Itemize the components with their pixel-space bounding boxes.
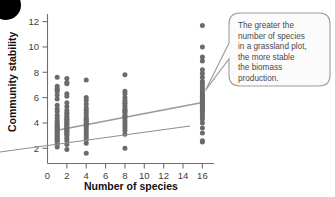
data-point bbox=[64, 81, 69, 86]
data-point bbox=[55, 75, 60, 80]
y-tick-label: 4 bbox=[34, 117, 39, 128]
x-tick-label: 16 bbox=[197, 170, 208, 181]
data-point bbox=[200, 120, 205, 125]
y-tick-label: 8 bbox=[34, 67, 39, 78]
data-point bbox=[84, 141, 89, 146]
y-axis-tick-labels: 24681012 bbox=[28, 16, 39, 154]
annotation-callout: The greater thenumber of speciesin a gra… bbox=[205, 13, 330, 90]
data-point bbox=[84, 77, 89, 82]
y-tick-label: 10 bbox=[28, 41, 39, 52]
data-point bbox=[64, 94, 69, 99]
data-point bbox=[200, 131, 205, 136]
trend-line bbox=[57, 102, 202, 130]
y-axis-title: Community stability bbox=[6, 31, 18, 132]
corner-bullet-icon bbox=[0, 0, 21, 20]
data-point bbox=[200, 126, 205, 131]
data-points bbox=[55, 23, 205, 156]
annotation-line: the more stable bbox=[238, 53, 295, 62]
x-tick-label: 2 bbox=[64, 170, 69, 181]
chart-figure: 24681012 0246810121416 Community stabili… bbox=[0, 0, 335, 197]
x-tick-label: 0 bbox=[45, 170, 50, 181]
data-point bbox=[84, 151, 89, 156]
data-point bbox=[200, 58, 205, 63]
annotation-line: production. bbox=[238, 74, 279, 83]
data-point bbox=[64, 147, 69, 152]
y-tick-label: 12 bbox=[28, 16, 39, 27]
data-point bbox=[55, 145, 60, 150]
annotation-line: The greater the bbox=[238, 21, 294, 30]
y-tick-label: 2 bbox=[34, 143, 39, 154]
data-point bbox=[200, 44, 205, 49]
x-axis-title: Number of species bbox=[84, 180, 178, 192]
data-point bbox=[200, 138, 205, 143]
annotation-line: the biomass bbox=[238, 63, 282, 72]
data-point bbox=[122, 72, 127, 77]
data-point bbox=[200, 23, 205, 28]
x-tick-label: 14 bbox=[178, 170, 189, 181]
scatter-plot-svg: 24681012 0246810121416 Community stabili… bbox=[0, 0, 335, 197]
annotation-line: in a grassland plot, bbox=[238, 42, 307, 51]
annotation-line: number of species bbox=[238, 32, 305, 41]
data-point bbox=[55, 96, 60, 101]
leader-line bbox=[0, 126, 190, 152]
y-tick-label: 6 bbox=[34, 92, 39, 103]
data-point bbox=[122, 146, 127, 151]
